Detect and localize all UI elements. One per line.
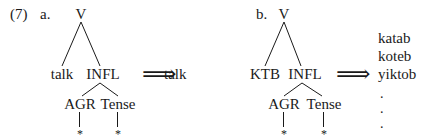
- part-b-label: b.: [256, 7, 267, 22]
- edge-b-infl-agr: [284, 83, 302, 96]
- node-b-v: V: [279, 7, 290, 22]
- leaf-a-tense-star: *: [115, 127, 121, 139]
- ellipsis-dot-3: .: [380, 117, 384, 131]
- edge-b-v-infl: [284, 22, 301, 66]
- node-a-infl: INFL: [86, 67, 119, 82]
- leaf-b-agr-star: *: [281, 127, 287, 139]
- edge-b-infl-tense: [302, 83, 322, 96]
- double-arrow-icon: ⟹: [336, 62, 370, 86]
- node-a-agr: AGR: [64, 97, 96, 112]
- node-b-tense: Tense: [307, 97, 342, 112]
- output-b-katab: katab: [378, 31, 410, 46]
- output-b-koteb: koteb: [378, 49, 411, 64]
- part-a-label: a.: [40, 7, 50, 22]
- edge-b-v-ktb: [265, 22, 284, 66]
- leaf-a-agr-star: *: [77, 127, 83, 139]
- leaf-b-tense-star: *: [321, 127, 327, 139]
- node-a-tense: Tense: [101, 97, 136, 112]
- ellipsis-dot-2: .: [380, 102, 384, 116]
- ellipsis-dot-1: .: [380, 87, 384, 101]
- node-b-ktb: KTB: [250, 67, 280, 82]
- output-a-talk: talk: [164, 67, 187, 82]
- edge-a-v-infl: [81, 22, 100, 66]
- example-number: (7): [10, 7, 28, 22]
- edge-a-infl-agr: [82, 83, 100, 96]
- edge-a-infl-tense: [100, 83, 118, 96]
- node-a-v: V: [76, 7, 87, 22]
- output-b-yiktob: yiktob: [378, 67, 416, 82]
- node-a-talk: talk: [51, 67, 74, 82]
- node-b-infl: INFL: [288, 67, 321, 82]
- node-b-agr: AGR: [268, 97, 300, 112]
- edge-a-v-talk: [62, 22, 81, 66]
